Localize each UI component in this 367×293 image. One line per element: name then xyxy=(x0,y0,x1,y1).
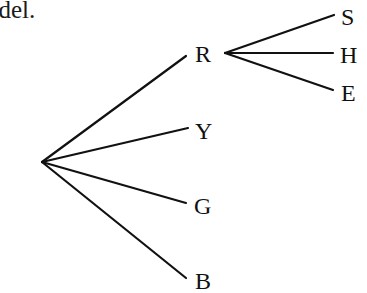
node-s: S xyxy=(341,4,354,30)
node-r: R xyxy=(195,41,211,67)
level1-edges xyxy=(42,56,188,278)
node-b: B xyxy=(195,268,211,293)
edge-r-e xyxy=(225,53,333,90)
edge-root-b xyxy=(42,162,186,278)
node-h: H xyxy=(340,42,357,68)
edge-root-g xyxy=(42,162,186,203)
node-e: E xyxy=(341,80,356,106)
node-g: G xyxy=(194,193,211,219)
node-y: Y xyxy=(195,118,212,144)
level2-edges xyxy=(225,15,334,90)
tree-diagram: R Y G B S H E xyxy=(0,0,367,293)
edge-r-s xyxy=(225,15,334,53)
